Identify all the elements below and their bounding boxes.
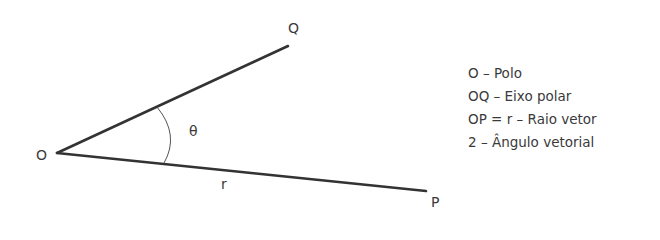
angle-label-theta: θ [189, 124, 198, 138]
point-label-p: P [431, 195, 439, 209]
polar-axis-line-oq [57, 46, 288, 153]
point-label-q: Q [288, 21, 299, 35]
legend-item-raio-vetor: OP = r – Raio vetor [468, 108, 597, 131]
legend-item-eixo-polar: OQ – Eixo polar [468, 85, 597, 108]
legend: O – Polo OQ – Eixo polar OP = r – Raio v… [468, 62, 597, 154]
point-label-o: O [36, 148, 47, 162]
angle-arc [157, 107, 171, 163]
legend-item-polo: O – Polo [468, 62, 597, 85]
legend-item-angulo-vetorial: 2 – Ângulo vetorial [468, 131, 597, 154]
segment-label-r: r [221, 177, 227, 191]
radius-vector-line-op [57, 153, 426, 191]
